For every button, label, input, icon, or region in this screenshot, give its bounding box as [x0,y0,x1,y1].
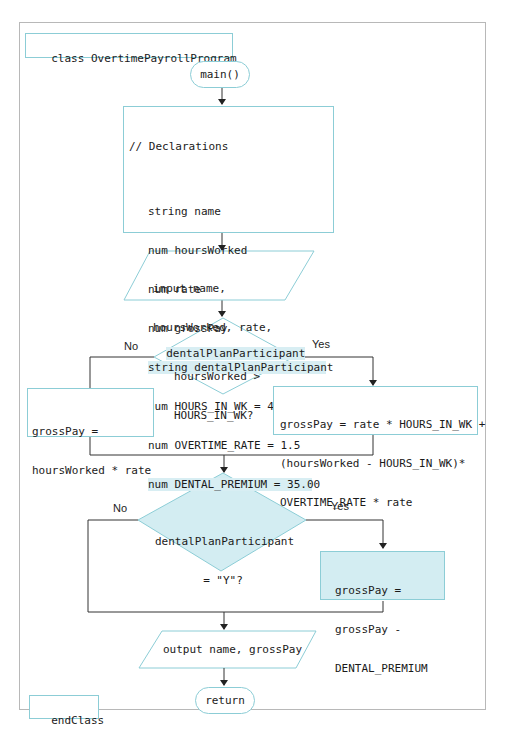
class-footer-box: endClass [29,695,99,719]
declaration-line: string name [148,205,333,218]
yes-branch2-box: grossPay = grossPay - DENTAL_PREMIUM [320,551,445,600]
process-line: grossPay = [335,584,444,597]
decision1-line: hoursWorked > [174,370,270,383]
process-line: DENTAL_PREMIUM [335,662,444,675]
process-line: hoursWorked * rate [32,464,153,477]
process-line: OVERTIME_RATE * rate [280,496,477,509]
decision1-no-label: No [124,340,138,352]
decision1-text: hoursWorked > HOURS_IN_WK? [174,344,270,435]
class-footer-text: endClass [51,714,104,727]
input-line: hoursWorked, rate, [153,321,305,334]
yes-branch1-box: grossPay = rate * HOURS_IN_WK + (hoursWo… [273,386,478,435]
declarations-box: // Declarations string name num hoursWor… [123,106,334,233]
start-terminal: main() [190,61,250,88]
process-line: grossPay = rate * HOURS_IN_WK + [280,418,477,431]
decision2-yes-label: Yes [331,500,349,512]
input-line: input name, [153,282,305,295]
process-line: grossPay - [335,623,444,636]
class-header-box: class OvertimePayrollProgram [25,33,233,58]
process-line: (hoursWorked - HOURS_IN_WK)* [280,457,477,470]
decision2-line: dentalPlanParticipant [155,535,291,548]
process-line: grossPay = [32,425,153,438]
output-text: output name, grossPay [163,643,302,656]
decision1-line: HOURS_IN_WK? [174,409,270,422]
start-terminal-text: main() [200,68,240,81]
declarations-comment: // Declarations [129,140,333,153]
end-terminal: return [195,687,255,714]
decision2-no-label: No [113,502,127,514]
decision2-line: = "Y"? [155,574,291,587]
decision2-text: dentalPlanParticipant = "Y"? [155,509,291,600]
no-branch1-box: grossPay = hoursWorked * rate [27,388,154,437]
end-terminal-text: return [205,694,245,707]
decision1-yes-label: Yes [312,338,330,350]
